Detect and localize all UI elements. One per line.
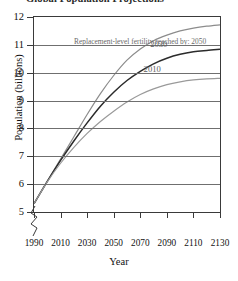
x-axis-tick [140,213,141,218]
x-axis-title: Year [0,256,238,267]
plot-area: Replacement-level fertility reached by: … [33,16,221,213]
y-axis-tick [27,101,33,102]
y-axis-tick [27,184,33,185]
gridline [34,73,220,74]
y-axis-label: 9 [0,96,24,107]
gridline [34,45,220,46]
gridline [34,128,220,129]
y-axis-tick [27,45,33,46]
y-axis-label: 7 [0,151,24,162]
x-axis-tick [193,213,194,218]
x-axis-label: 2130 [203,238,237,248]
gridline [34,184,220,185]
gridline [34,156,220,157]
y-axis-tick [27,156,33,157]
population-projection-chart: Global Population Projections Population… [0,0,238,281]
gridline [34,101,220,102]
x-axis-tick [87,213,88,218]
x-axis-tick [34,213,35,218]
y-axis-tick [27,73,33,74]
y-axis-label: 8 [0,123,24,134]
y-axis-label: 5 [0,207,24,218]
curve-layer [34,17,220,212]
y-axis-label: 12 [0,12,24,23]
x-axis-tick [220,213,221,218]
y-axis-tick [27,212,33,213]
x-axis-tick [114,213,115,218]
x-axis-tick [167,213,168,218]
series-label-2030: 2030 [150,39,167,49]
y-axis-break-icon [28,206,40,236]
x-axis-tick [61,213,62,218]
y-axis-tick [27,128,33,129]
series-label-2010: 2010 [144,64,161,74]
y-axis-label: 6 [0,179,24,190]
y-axis-tick [27,17,33,18]
y-axis-label: 10 [0,68,24,79]
chart-title: Global Population Projections [26,0,216,5]
y-axis-label: 11 [0,40,24,51]
